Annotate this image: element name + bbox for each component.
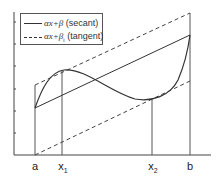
secant-label: (secant) xyxy=(66,18,99,28)
tick-label-x2: x2 xyxy=(148,160,157,174)
tick-label-x1: x1 xyxy=(58,160,67,174)
legend: αx+β (secant) αx+βi (tangent) xyxy=(20,13,103,45)
legend-item-tangent: αx+βi (tangent) xyxy=(24,31,103,43)
tangent-subscript: i xyxy=(63,37,64,43)
tick-label-b: b xyxy=(187,160,193,172)
solid-line-swatch xyxy=(24,23,42,24)
tangent-formula: αx+β xyxy=(44,31,63,41)
legend-item-secant: αx+β (secant) xyxy=(24,17,98,29)
tick-label-a: a xyxy=(32,160,38,172)
dashed-line-swatch xyxy=(24,37,42,38)
lower-tangent-line xyxy=(35,81,190,155)
secant-formula: αx+β xyxy=(44,18,63,28)
tangent-label: (tangent) xyxy=(67,31,103,41)
